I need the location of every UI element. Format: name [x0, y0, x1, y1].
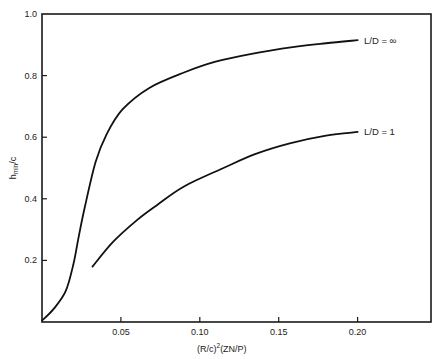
- y-axis-title-sub: min: [12, 163, 19, 174]
- y-tick-label: 0.8: [24, 71, 37, 81]
- x-tick-label: 0.05: [112, 327, 130, 337]
- curves: [42, 40, 358, 320]
- series-label-ld-infinity: L/D = ∞: [364, 35, 397, 46]
- y-tick-label: 0.6: [24, 132, 37, 142]
- x-tick-label: 0.10: [191, 327, 209, 337]
- x-axis-title: (R/c)2(ZN/P): [197, 342, 247, 354]
- y-tick-label: 1.0: [24, 9, 37, 19]
- curve-ld-one: [92, 132, 357, 267]
- x-tick-label: 0.15: [270, 327, 288, 337]
- y-axis-title: hmin/c: [8, 156, 19, 179]
- curve-ld-infinity: [42, 40, 358, 320]
- x-axis-ticks: 0.050.100.150.20: [112, 317, 366, 337]
- x-axis-title-rest: (ZN/P): [220, 344, 247, 354]
- y-tick-label: 0.2: [24, 255, 37, 265]
- series-label-ld-one: L/D = 1: [364, 126, 395, 137]
- y-tick-label: 0.4: [24, 194, 37, 204]
- chart: 0.20.40.60.81.0 0.050.100.150.20 L/D = ∞…: [0, 0, 444, 359]
- x-tick-label: 0.20: [349, 327, 367, 337]
- y-axis-ticks: 0.20.40.60.81.0: [24, 9, 47, 265]
- y-axis-title-rest: /c: [8, 156, 18, 164]
- x-axis-title-base: (R/c): [197, 344, 217, 354]
- plot-frame: [42, 14, 431, 322]
